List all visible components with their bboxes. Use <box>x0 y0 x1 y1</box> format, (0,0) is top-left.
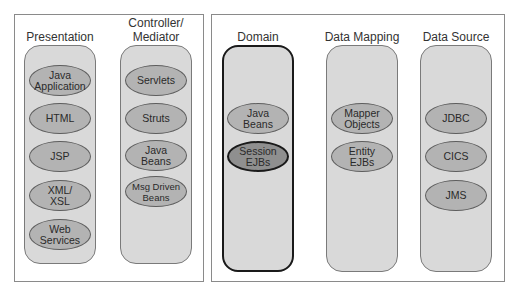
jdbc-node: JDBC <box>425 103 487 134</box>
data-mapping-title: Data Mapping <box>312 30 412 44</box>
node-label: JMS <box>446 190 467 201</box>
node-label: Java Application <box>34 70 85 92</box>
node-label: Mapper Objects <box>344 108 380 130</box>
entity-ejbs-node: Entity EJBs <box>331 141 393 172</box>
node-label: HTML <box>46 113 75 124</box>
domain-java-beans-node: Java Beans <box>227 103 289 134</box>
node-label: JDBC <box>442 113 469 124</box>
servlets-node: Servlets <box>125 65 187 96</box>
xml-xsl-node: XML/ XSL <box>29 180 91 211</box>
node-label: Java Beans <box>243 108 273 130</box>
jms-node: JMS <box>425 180 487 211</box>
cics-node: CICS <box>425 141 487 172</box>
presentation-title: Presentation <box>14 30 106 44</box>
node-label: Struts <box>142 113 169 124</box>
controller-mediator-title: Controller/ Mediator <box>108 16 204 44</box>
domain-title: Domain <box>212 30 304 44</box>
node-label: Java Beans <box>141 145 171 167</box>
struts-node: Struts <box>125 103 187 134</box>
node-label: CICS <box>443 151 468 162</box>
node-label: Web Services <box>40 224 80 246</box>
msg-driven-beans-node: Msg Driven Beans <box>125 176 187 207</box>
mapper-objects-node: Mapper Objects <box>331 103 393 134</box>
jsp-node: JSP <box>29 141 91 172</box>
node-label: Msg Driven Beans <box>132 181 180 203</box>
node-label: Entity EJBs <box>349 146 375 168</box>
web-services-node: Web Services <box>29 219 91 250</box>
node-label: Session EJBs <box>239 146 276 168</box>
node-label: JSP <box>50 151 69 162</box>
java-application-node: Java Application <box>29 65 91 96</box>
data-source-title: Data Source <box>408 30 504 44</box>
java-beans-node: Java Beans <box>125 140 187 171</box>
session-ejbs-node: Session EJBs <box>227 141 289 172</box>
node-label: Servlets <box>137 75 175 86</box>
html-node: HTML <box>29 103 91 134</box>
node-label: XML/ XSL <box>48 185 73 207</box>
